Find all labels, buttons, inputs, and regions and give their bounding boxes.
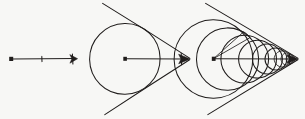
figure-canvas	[0, 0, 305, 119]
stage-2-circle-cone	[90, 3, 191, 114]
stage-3-nested-circles	[174, 3, 299, 114]
nested-radius-segment-b	[214, 38, 250, 59]
geometric-diagram	[0, 0, 305, 119]
nested-radius-segment-a	[214, 33, 243, 59]
cone-tangent-lower	[105, 60, 190, 115]
nested-tangent-lower	[208, 60, 298, 115]
stage-1-vector	[9, 54, 77, 64]
